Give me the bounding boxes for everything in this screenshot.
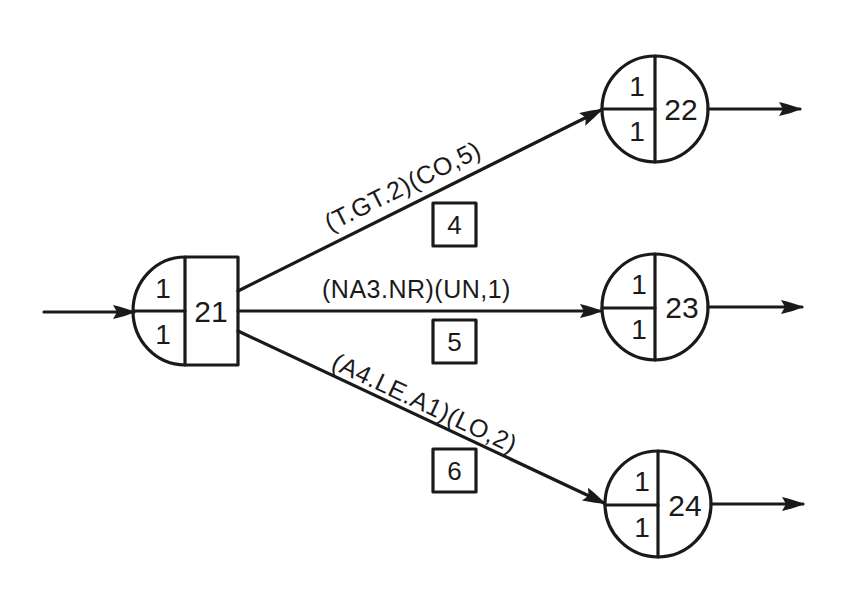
- target-node-24[interactable]: 1 1 24: [605, 451, 803, 557]
- node-21-top-value: 1: [155, 273, 171, 304]
- edge-6-condition-label: (A4.LE.A1)(LO,2): [328, 347, 522, 458]
- node-21-id: 21: [194, 295, 227, 328]
- edge-5-condition-label: (NA3.NR)(UN,1): [322, 275, 511, 303]
- node-24-bottom-value: 1: [634, 512, 650, 543]
- node-23-id: 23: [665, 291, 698, 324]
- node-21-bottom-value: 1: [155, 319, 171, 350]
- edge-5-number: 5: [447, 327, 461, 357]
- target-node-22[interactable]: 1 1 22: [602, 56, 800, 162]
- node-23-bottom-value: 1: [631, 314, 647, 345]
- node-22-bottom-value: 1: [629, 116, 645, 147]
- source-node-21[interactable]: 1 1 21: [133, 257, 238, 365]
- edge-6-number: 6: [447, 456, 461, 486]
- edge-21-24[interactable]: (A4.LE.A1)(LO,2) 6: [238, 331, 604, 503]
- node-23-top-value: 1: [631, 269, 647, 300]
- edge-21-23[interactable]: (NA3.NR)(UN,1) 5: [238, 275, 601, 363]
- edge-4-number: 4: [447, 210, 461, 240]
- node-24-id: 24: [668, 489, 701, 522]
- flow-diagram: 1 1 21 (T.GT.2)(CO,5) 4 (NA3.NR)(UN,1) 5…: [0, 0, 844, 600]
- edge-21-22[interactable]: (T.GT.2)(CO,5) 4: [238, 110, 601, 291]
- node-24-top-value: 1: [634, 466, 650, 497]
- node-22-id: 22: [664, 93, 697, 126]
- node-22-top-value: 1: [629, 71, 645, 102]
- target-node-23[interactable]: 1 1 23: [602, 254, 802, 360]
